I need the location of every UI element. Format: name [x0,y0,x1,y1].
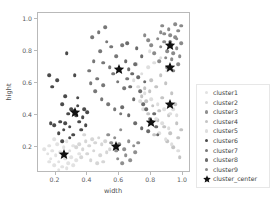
legend-dot-swatch [205,101,208,104]
legend-dot-swatch [205,110,208,113]
cluster-center-star-icon [165,40,176,51]
legend-item-cluster2[interactable]: cluster2 [200,98,267,108]
legend-dot-icon [200,120,213,123]
legend-dot-icon [200,129,213,132]
plot-area [37,12,190,172]
scatter-chart-figure: 0.20.40.60.81.0 width hight cluster1clus… [0,0,272,207]
legend-dot-icon [200,158,213,161]
y-tick-mark [34,50,37,51]
x-tick-label: 0.8 [145,176,155,183]
legend[interactable]: cluster1cluster2cluster3cluster4cluster5… [196,84,270,188]
cluster-center-star-icon [114,64,125,75]
legend-dot-swatch [205,139,208,142]
y-tick-label: 0.6 [22,79,32,86]
legend-dot-swatch [205,120,208,123]
legend-label: cluster3 [213,107,238,117]
legend-label: cluster_center [213,174,257,184]
legend-label: cluster9 [213,165,238,175]
legend-label: cluster6 [213,136,238,146]
legend-label: cluster4 [213,117,238,127]
legend-item-cluster6[interactable]: cluster6 [200,136,267,146]
legend-dot-swatch [205,91,208,94]
x-tick-label: 0.2 [50,176,60,183]
legend-item-cluster8[interactable]: cluster8 [200,155,267,165]
legend-item-cluster-center[interactable]: cluster_center [200,174,267,184]
legend-item-cluster7[interactable]: cluster7 [200,146,267,156]
legend-dot-icon [200,110,213,113]
x-tick-label: 1.0 [177,176,187,183]
x-tick-mark [182,172,183,175]
legend-dot-icon [200,149,213,152]
x-tick-mark [55,172,56,175]
y-tick-label: 0.4 [22,111,32,118]
y-tick-mark [34,18,37,19]
legend-dot-swatch [205,158,208,161]
x-tick-mark [150,172,151,175]
cluster-center-star-icon [146,116,157,127]
y-tick-mark [34,82,37,83]
cluster-center-star-icon [165,99,176,110]
legend-star-icon [200,175,213,183]
legend-label: cluster2 [213,98,238,108]
x-axis-label: width [104,187,122,195]
x-tick-label: 0.4 [81,176,91,183]
legend-dot-icon [200,91,213,94]
legend-dot-icon [200,139,213,142]
cluster-center-star-icon [69,107,80,118]
legend-item-cluster3[interactable]: cluster3 [200,107,267,117]
y-tick-label: 1.0 [22,15,32,22]
legend-dot-swatch [205,149,208,152]
legend-dot-swatch [205,168,208,171]
legend-label: cluster8 [213,155,238,165]
x-tick-mark [86,172,87,175]
y-tick-mark [34,146,37,147]
legend-dot-icon [200,101,213,104]
legend-label: cluster7 [213,146,238,156]
y-tick-mark [34,114,37,115]
x-tick-mark [118,172,119,175]
legend-item-cluster5[interactable]: cluster5 [200,126,267,136]
y-axis-label: hight [5,84,13,101]
y-axis-ticks [0,0,32,207]
legend-label: cluster1 [213,88,238,98]
cluster-center-star-icon [111,140,122,151]
cluster-centers-layer [38,13,189,171]
x-tick-label: 0.6 [113,176,123,183]
legend-label: cluster5 [213,126,238,136]
y-tick-label: 0.2 [22,143,32,150]
legend-item-cluster4[interactable]: cluster4 [200,117,267,127]
legend-item-cluster1[interactable]: cluster1 [200,88,267,98]
legend-dot-icon [200,168,213,171]
legend-dot-swatch [205,129,208,132]
legend-item-cluster9[interactable]: cluster9 [200,165,267,175]
cluster-center-star-icon [58,148,69,159]
y-tick-label: 0.8 [22,47,32,54]
cluster-center-star-icon [165,62,176,73]
